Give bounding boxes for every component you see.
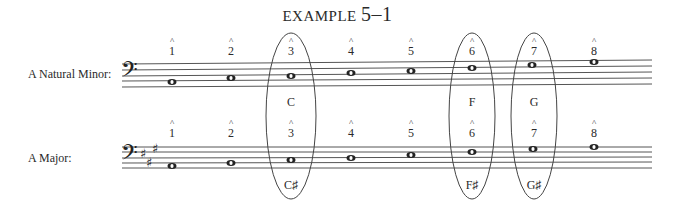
staff-minor xyxy=(122,60,652,87)
note-name-g: G xyxy=(519,95,549,110)
key-signature-sharps: ♯ ♯ ♯ xyxy=(140,141,158,170)
note-name-c-sharp: C♯ xyxy=(276,178,306,193)
svg-text:♯: ♯ xyxy=(146,155,152,170)
degree-8-major: ^8 xyxy=(584,126,604,141)
degree-1-major: ^1 xyxy=(162,126,182,141)
svg-text:𝄢: 𝄢 xyxy=(121,57,138,87)
degree-2-minor: ^2 xyxy=(221,44,241,59)
degree-4-minor: ^4 xyxy=(341,44,361,59)
degree-6-major: ^6 xyxy=(462,126,482,141)
note-name-f: F xyxy=(457,95,487,110)
staff-major xyxy=(122,147,652,168)
note-name-c: C xyxy=(276,95,306,110)
degree-3-minor: ^3 xyxy=(281,44,301,59)
degree-1-minor: ^1 xyxy=(162,44,182,59)
degree-6-minor: ^6 xyxy=(462,44,482,59)
degree-7-major: ^7 xyxy=(524,126,544,141)
note-name-f-sharp: F♯ xyxy=(457,178,487,193)
bass-clef-icon-major: 𝄢 xyxy=(121,140,138,170)
degree-3-major: ^3 xyxy=(281,126,301,141)
degree-5-minor: ^5 xyxy=(401,44,421,59)
svg-text:𝄢: 𝄢 xyxy=(121,140,138,170)
staff-notation: 𝄢 𝄢 ♯ ♯ ♯ xyxy=(0,0,675,211)
bass-clef-icon-minor: 𝄢 xyxy=(121,57,138,87)
svg-text:♯: ♯ xyxy=(152,141,158,156)
degree-2-major: ^2 xyxy=(221,126,241,141)
degree-8-minor: ^8 xyxy=(584,44,604,59)
degree-4-major: ^4 xyxy=(341,126,361,141)
degree-5-major: ^5 xyxy=(401,126,421,141)
degree-7-minor: ^7 xyxy=(524,44,544,59)
note-name-g-sharp: G♯ xyxy=(519,178,549,193)
